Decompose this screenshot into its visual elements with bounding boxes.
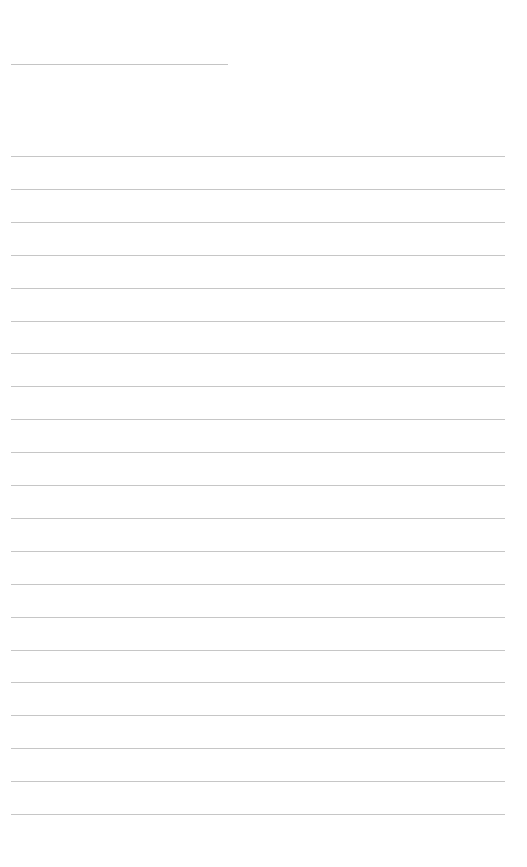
ruled-line: [11, 189, 505, 190]
ruled-line: [11, 222, 505, 223]
ruled-line: [11, 584, 505, 585]
ruled-line: [11, 353, 505, 354]
ruled-line: [11, 781, 505, 782]
ruled-line: [11, 288, 505, 289]
ruled-line: [11, 814, 505, 815]
ruled-line: [11, 682, 505, 683]
ruled-line: [11, 551, 505, 552]
ruled-line: [11, 255, 505, 256]
ruled-line: [11, 650, 505, 651]
ruled-line: [11, 715, 505, 716]
ruled-line: [11, 485, 505, 486]
ruled-page: [0, 0, 527, 867]
ruled-line: [11, 156, 505, 157]
ruled-line: [11, 748, 505, 749]
ruled-line: [11, 321, 505, 322]
header-line: [11, 64, 228, 65]
ruled-line: [11, 518, 505, 519]
ruled-line: [11, 617, 505, 618]
ruled-line: [11, 452, 505, 453]
ruled-line: [11, 419, 505, 420]
ruled-line: [11, 386, 505, 387]
